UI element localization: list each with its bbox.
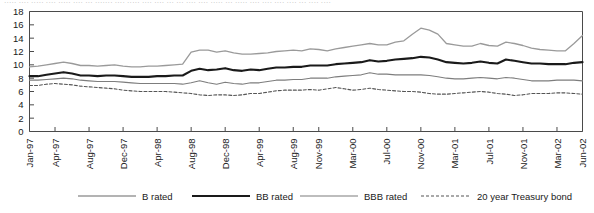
legend-label-bb-rated: BB rated [256, 191, 293, 202]
chart-figure: ····· ···· ····· ···· ····· ···· ··· ···… [0, 0, 594, 213]
legend-label-20-year-treasury-bond: 20 year Treasury bond [477, 191, 572, 202]
x-tick-label: Dec-97 [118, 139, 129, 170]
series-line-20-year-treasury-bond [30, 84, 583, 96]
line-chart-svg: 024681012141618 Jan-97Apr-97Aug-97Dec-97… [0, 0, 594, 213]
x-tick-label: Aug-99 [288, 139, 299, 170]
x-tick-label: Apr-97 [50, 139, 61, 168]
axis-frame [30, 12, 583, 132]
data-series-group [30, 28, 583, 95]
x-tick-label: Jun-02 [577, 139, 588, 168]
x-tick-label: Nov-00 [415, 139, 426, 170]
y-tick-label: 4 [18, 99, 23, 110]
x-tick-label: Apr-99 [254, 139, 265, 168]
y-tick-label: 18 [13, 6, 24, 17]
x-tick-label: Mar-00 [347, 139, 358, 169]
legend-label-bbb-rated: BBB rated [364, 191, 407, 202]
x-tick-label: Mar-01 [449, 139, 460, 169]
y-tick-label: 14 [13, 33, 24, 44]
x-axis-tick-marks [30, 127, 583, 132]
y-tick-label: 10 [13, 59, 24, 70]
y-axis-tick-labels: 024681012141618 [13, 6, 24, 137]
y-tick-label: 12 [13, 46, 24, 57]
y-tick-label: 2 [18, 113, 23, 124]
x-tick-label: Apr-98 [152, 139, 163, 168]
y-tick-label: 6 [18, 86, 23, 97]
series-line-b-rated [30, 28, 583, 67]
y-tick-label: 0 [18, 126, 23, 137]
chart-legend: B ratedBB ratedBBB rated20 year Treasury… [78, 191, 572, 202]
x-tick-label: Aug-98 [186, 139, 197, 170]
x-tick-label: Jul-01 [484, 139, 495, 165]
x-tick-label: Mar-02 [552, 139, 563, 169]
series-line-bb-rated [30, 57, 583, 77]
x-axis-tick-labels: Jan-97Apr-97Aug-97Dec-97Apr-98Aug-98Dec-… [24, 139, 588, 170]
y-tick-label: 8 [18, 73, 23, 84]
chart-plot-area: 024681012141618 Jan-97Apr-97Aug-97Dec-97… [0, 0, 594, 213]
x-tick-label: Dec-98 [220, 139, 231, 170]
x-tick-label: Nov-01 [518, 139, 529, 170]
x-tick-label: Nov-99 [313, 139, 324, 170]
x-tick-label: Jul-00 [381, 139, 392, 165]
legend-label-b-rated: B rated [142, 191, 173, 202]
x-tick-label: Jan-97 [24, 139, 35, 168]
y-axis-tick-marks [30, 12, 35, 119]
y-tick-label: 16 [13, 19, 24, 30]
axis-frame-path [30, 12, 583, 132]
x-tick-label: Aug-97 [84, 139, 95, 170]
